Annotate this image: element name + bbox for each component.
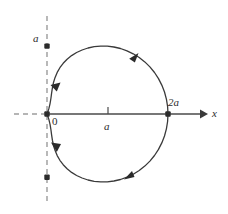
direction-arrow-lower-left (51, 143, 61, 153)
label-point-a: a (33, 33, 39, 44)
cardioid-figure: a 2a 0 a x (0, 0, 228, 214)
x-axis-arrowhead (200, 110, 208, 119)
marker-point-2a (165, 111, 170, 116)
direction-arrow-lower-right (124, 171, 135, 180)
label-axis-x: x (212, 108, 217, 119)
marker-point-a-top (44, 43, 49, 48)
marker-origin (44, 111, 49, 116)
marker-point-a-bottom (44, 175, 49, 180)
label-axis-tick-a: a (104, 121, 110, 132)
label-point-2a: 2a (168, 97, 179, 108)
label-origin: 0 (52, 116, 58, 127)
